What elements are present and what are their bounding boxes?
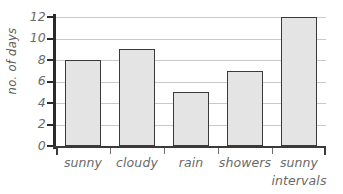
y-axis-tick-mark xyxy=(47,124,54,126)
y-axis-tick-labels: 121086420 xyxy=(20,0,46,194)
x-axis-category-labels: sunnycloudyrainshowerssunnyintervals xyxy=(56,154,328,194)
bar xyxy=(281,17,317,146)
plot-area xyxy=(56,17,326,146)
y-axis-tick-label: 8 xyxy=(24,54,46,67)
bar xyxy=(119,49,155,146)
x-axis-category-label-line: sunny xyxy=(64,155,102,170)
y-axis-tick-label: 12 xyxy=(24,11,46,24)
y-axis-tick-label: 10 xyxy=(24,32,46,45)
y-axis-tick-mark xyxy=(47,59,54,61)
bar xyxy=(65,60,101,146)
x-axis-category-label-line: cloudy xyxy=(116,155,158,170)
y-axis-tick-label: 4 xyxy=(24,97,46,110)
x-axis-category-label-line: sunny xyxy=(280,155,318,170)
y-axis-tick-label: 2 xyxy=(24,118,46,131)
y-axis-tick-mark xyxy=(47,102,54,104)
x-axis-category-label-line: showers xyxy=(219,155,271,170)
y-axis-tick-mark xyxy=(47,38,54,40)
bar xyxy=(227,71,263,146)
x-axis-category-label-line: intervals xyxy=(266,172,332,190)
bar xyxy=(173,92,209,146)
y-axis-tick-mark xyxy=(47,16,54,18)
bar-chart: no. of days 121086420 sunnycloudyrainsho… xyxy=(0,0,343,194)
x-axis-category-label: sunnyintervals xyxy=(266,154,332,190)
y-axis-tick-label: 0 xyxy=(24,140,46,153)
y-axis-title: no. of days xyxy=(5,11,19,111)
y-axis-tick-mark xyxy=(47,81,54,83)
x-axis-line xyxy=(53,146,326,148)
x-axis-category-label-line: rain xyxy=(179,155,204,170)
y-axis-tick-label: 6 xyxy=(24,75,46,88)
